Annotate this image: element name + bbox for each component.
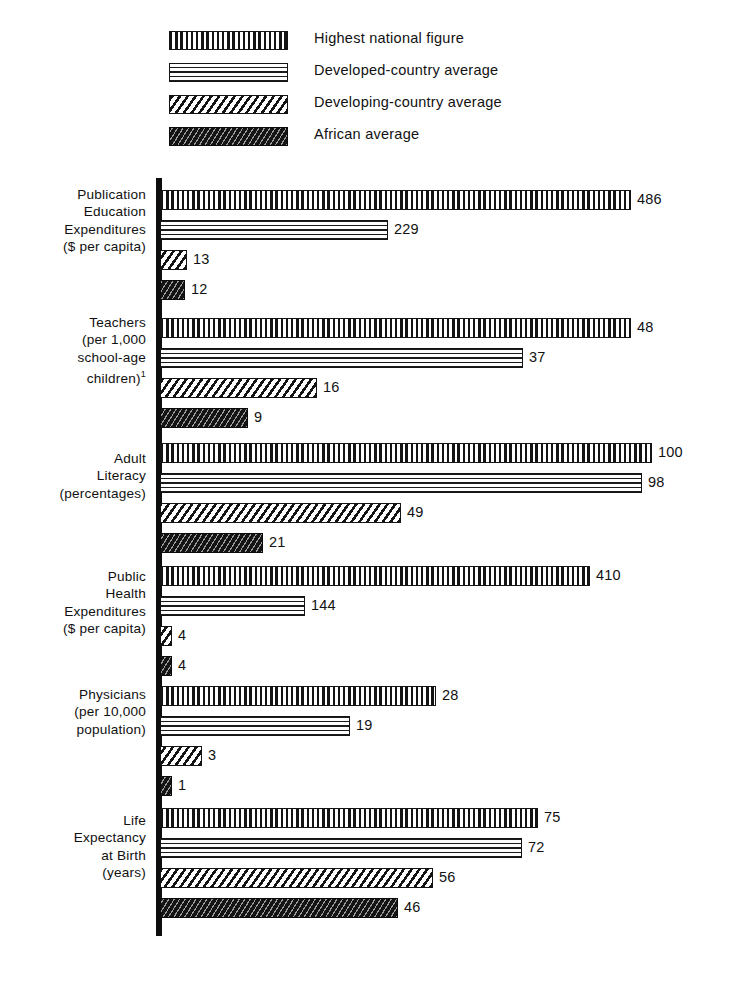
legend-label: Developing-country average bbox=[314, 94, 502, 110]
bar-value-label: 144 bbox=[311, 597, 336, 613]
bar-public-health-expenditures-diagonal bbox=[160, 626, 172, 646]
bar-value-label: 100 bbox=[658, 444, 683, 460]
category-label-line: school-age bbox=[0, 349, 146, 366]
bar-life-expectancy-dark bbox=[160, 898, 398, 918]
category-label-line: Public bbox=[0, 568, 146, 585]
bar-row: 4 bbox=[160, 656, 232, 676]
bar-row: 46 bbox=[160, 898, 458, 918]
bar-value-label: 16 bbox=[323, 379, 340, 395]
bar-row: 19 bbox=[160, 716, 410, 736]
category-label-line: (per 1,000 bbox=[0, 331, 146, 348]
bar-public-health-expenditures-vertical bbox=[160, 566, 590, 586]
bar-row: 12 bbox=[160, 280, 245, 300]
bar-life-expectancy-vertical bbox=[160, 808, 538, 828]
bar-row: 72 bbox=[160, 838, 582, 858]
legend-swatch-diagonal-icon bbox=[169, 95, 288, 114]
bar-row: 486 bbox=[160, 190, 691, 210]
bar-row: 16 bbox=[160, 378, 377, 398]
category-label-line: ($ per capita) bbox=[0, 620, 146, 637]
category-label-public-health-expenditures: PublicHealthExpenditures($ per capita) bbox=[0, 568, 146, 638]
bar-physicians-diagonal bbox=[160, 746, 202, 766]
category-label-line: Teachers bbox=[0, 314, 146, 331]
category-label-line: ($ per capita) bbox=[0, 238, 146, 255]
bar-value-label: 229 bbox=[394, 221, 419, 237]
chart-plot-area: PublicationEducationExpenditures($ per c… bbox=[0, 178, 731, 968]
bar-row: 13 bbox=[160, 250, 247, 270]
bar-row: 410 bbox=[160, 566, 650, 586]
legend-swatch-horizontal-icon bbox=[169, 63, 288, 82]
bar-public-health-expenditures-dark bbox=[160, 656, 172, 676]
bar-value-label: 37 bbox=[529, 349, 546, 365]
category-label-line: Adult bbox=[0, 450, 146, 467]
legend-swatch-dark-icon bbox=[169, 127, 288, 146]
legend-label: African average bbox=[314, 126, 419, 142]
bar-life-expectancy-diagonal bbox=[160, 868, 433, 888]
bar-value-label: 13 bbox=[193, 251, 210, 267]
category-label-life-expectancy: LifeExpectancyat Birth(years) bbox=[0, 812, 146, 882]
bar-value-label: 1 bbox=[178, 777, 186, 793]
bar-row: 9 bbox=[160, 408, 308, 428]
bar-row: 37 bbox=[160, 348, 583, 368]
bar-adult-literacy-diagonal bbox=[160, 503, 401, 523]
bar-value-label: 72 bbox=[528, 839, 545, 855]
bar-row: 3 bbox=[160, 746, 262, 766]
bar-value-label: 4 bbox=[178, 627, 186, 643]
legend-label: Developed-country average bbox=[314, 62, 498, 78]
footnote-marker: 1 bbox=[141, 369, 146, 379]
bar-value-label: 48 bbox=[637, 319, 654, 335]
bar-teachers-horizontal bbox=[160, 348, 523, 368]
category-label-line: at Birth bbox=[0, 847, 146, 864]
bar-value-label: 21 bbox=[269, 534, 286, 550]
bar-education-expenditures-horizontal bbox=[160, 220, 388, 240]
bar-value-label: 19 bbox=[356, 717, 373, 733]
bar-row: 4 bbox=[160, 626, 232, 646]
category-label-line: Physicians bbox=[0, 686, 146, 703]
category-label-line: Expenditures bbox=[0, 221, 146, 238]
bar-teachers-dark bbox=[160, 408, 248, 428]
bar-education-expenditures-diagonal bbox=[160, 250, 187, 270]
category-label-education-expenditures: PublicationEducationExpenditures($ per c… bbox=[0, 186, 146, 256]
bar-teachers-vertical bbox=[160, 318, 631, 338]
category-label-line: Health bbox=[0, 585, 146, 602]
bar-value-label: 9 bbox=[254, 409, 262, 425]
bar-adult-literacy-vertical bbox=[160, 443, 652, 463]
bar-value-label: 12 bbox=[191, 281, 208, 297]
bar-value-label: 4 bbox=[178, 657, 186, 673]
bar-value-label: 410 bbox=[596, 567, 621, 583]
bar-physicians-vertical bbox=[160, 686, 436, 706]
bar-row: 49 bbox=[160, 503, 461, 523]
category-label-line: population) bbox=[0, 721, 146, 738]
bar-physicians-dark bbox=[160, 776, 172, 796]
bar-row: 144 bbox=[160, 596, 365, 616]
chart-legend: Highest national figureDeveloped-country… bbox=[169, 28, 589, 156]
bar-row: 56 bbox=[160, 868, 493, 888]
legend-african-average: African average bbox=[169, 124, 589, 156]
bar-row: 100 bbox=[160, 443, 712, 463]
bar-row: 75 bbox=[160, 808, 598, 828]
bar-row: 98 bbox=[160, 473, 702, 493]
bar-value-label: 46 bbox=[404, 899, 421, 915]
bar-teachers-diagonal bbox=[160, 378, 317, 398]
category-label-line: Publication bbox=[0, 186, 146, 203]
category-label-line: Expenditures bbox=[0, 603, 146, 620]
bar-value-label: 98 bbox=[648, 474, 665, 490]
bar-life-expectancy-horizontal bbox=[160, 838, 522, 858]
category-label-teachers: Teachers(per 1,000school-agechildren)1 bbox=[0, 314, 146, 387]
category-label-line: (per 10,000 bbox=[0, 703, 146, 720]
category-label-line: (years) bbox=[0, 864, 146, 881]
bar-education-expenditures-vertical bbox=[160, 190, 631, 210]
bar-value-label: 49 bbox=[407, 504, 424, 520]
category-label-physicians: Physicians(per 10,000population) bbox=[0, 686, 146, 738]
category-label-line: children)1 bbox=[0, 366, 146, 387]
bar-physicians-horizontal bbox=[160, 716, 350, 736]
bar-education-expenditures-dark bbox=[160, 280, 185, 300]
bar-value-label: 75 bbox=[544, 809, 561, 825]
legend-developing-country-average: Developing-country average bbox=[169, 92, 589, 124]
category-label-line: Life bbox=[0, 812, 146, 829]
bar-adult-literacy-dark bbox=[160, 533, 263, 553]
legend-developed-country-average: Developed-country average bbox=[169, 60, 589, 92]
category-label-line: Education bbox=[0, 203, 146, 220]
category-label-line: Literacy bbox=[0, 467, 146, 484]
bar-row: 48 bbox=[160, 318, 691, 338]
category-label-adult-literacy: AdultLiteracy(percentages) bbox=[0, 450, 146, 502]
